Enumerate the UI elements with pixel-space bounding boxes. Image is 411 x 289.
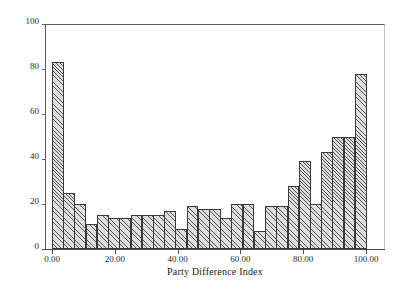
x-axis-tick-label: 0.00 — [44, 255, 60, 264]
histogram-bar — [164, 211, 176, 249]
histogram-bar — [198, 209, 210, 250]
histogram-bar — [74, 204, 86, 249]
y-axis-tick-label: 60 — [30, 107, 39, 116]
histogram-bar — [254, 231, 266, 249]
histogram-bar — [142, 215, 154, 249]
histogram-bar — [108, 218, 120, 250]
histogram-bar — [344, 137, 356, 250]
histogram-bar — [276, 206, 288, 249]
histogram-bar — [231, 204, 243, 249]
y-axis-tick-label: 40 — [30, 152, 39, 161]
x-axis-tick-label: 60.00 — [230, 255, 250, 264]
bar-series — [45, 24, 385, 249]
y-axis: 020406080100 — [0, 24, 46, 250]
histogram-bar — [299, 161, 311, 249]
histogram-bar — [175, 229, 187, 249]
histogram-bar — [332, 137, 344, 250]
histogram-bar — [321, 152, 333, 249]
y-axis-tick-label: 100 — [26, 17, 40, 26]
histogram-bar — [220, 218, 232, 250]
histogram-bar — [288, 186, 300, 249]
x-axis-tick-label: 80.00 — [293, 255, 313, 264]
histogram-bar — [209, 209, 221, 250]
histogram-bar — [355, 74, 367, 250]
histogram-bar — [243, 204, 255, 249]
histogram-bar — [63, 193, 75, 249]
histogram-bar — [153, 215, 165, 249]
histogram-bar — [119, 218, 131, 250]
y-axis-tick-label: 0 — [35, 242, 40, 251]
histogram-figure: 020406080100 0.0020.0040.0060.0080.00100… — [0, 0, 411, 289]
histogram-bar — [187, 206, 199, 249]
x-axis-tick-label: 100.00 — [354, 255, 379, 264]
x-axis-title: Party Difference Index — [45, 266, 385, 277]
histogram-bar — [97, 215, 109, 249]
histogram-bar — [131, 215, 143, 249]
x-axis-tick-label: 40.00 — [167, 255, 187, 264]
y-axis-tick-label: 80 — [30, 62, 39, 71]
y-axis-tick-label: 20 — [30, 197, 39, 206]
histogram-bar — [310, 204, 322, 249]
histogram-bar — [265, 206, 277, 249]
histogram-bar — [52, 62, 64, 249]
x-axis-tick-label: 20.00 — [105, 255, 125, 264]
histogram-bar — [86, 224, 98, 249]
